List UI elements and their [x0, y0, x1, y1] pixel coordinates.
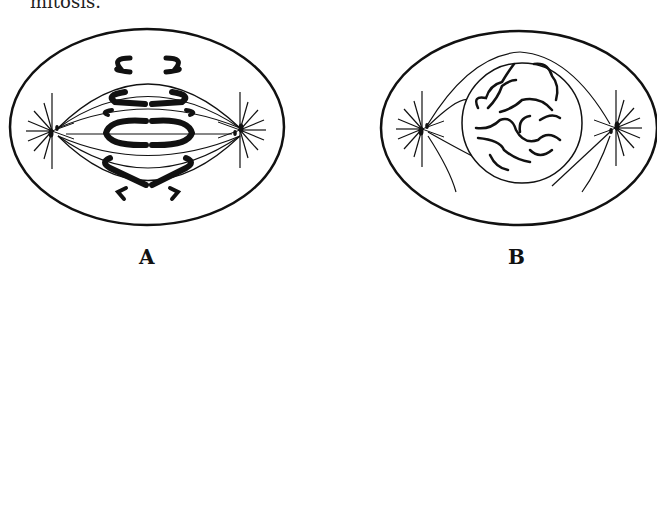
label-b: B: [508, 245, 525, 269]
mitosis-diagram: [0, 0, 657, 524]
cell-a: [10, 29, 284, 225]
label-a: A: [139, 245, 155, 269]
cell-b: [381, 31, 657, 225]
